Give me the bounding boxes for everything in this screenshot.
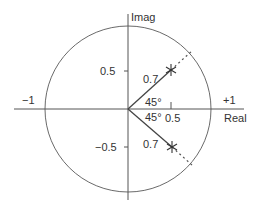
pole-extension-upper — [171, 50, 193, 70]
pole-marker-upper-icon — [166, 64, 176, 76]
angle-label-upper: 45° — [145, 96, 162, 108]
pole-magnitude-label-upper: 0.7 — [143, 73, 158, 85]
imag-axis-label: Imag — [131, 11, 155, 23]
y-tick-label-0.5: 0.5 — [100, 65, 115, 77]
real-axis-label: Real — [224, 112, 247, 124]
pole-extension-lower — [172, 147, 193, 166]
pole-magnitude-label-lower: 0.7 — [143, 138, 158, 150]
angle-label-lower: 45° — [145, 111, 162, 123]
pole-plot-diagram: Imag Real −1 0.5 +1 0.5 −0.5 0.7 0.7 45°… — [0, 0, 256, 212]
y-tick-label-neg0.5: −0.5 — [95, 141, 117, 153]
pole-marker-lower-icon — [167, 141, 177, 153]
x-tick-label-pos1: +1 — [223, 94, 236, 106]
x-tick-label-0.5: 0.5 — [165, 112, 180, 124]
x-tick-label-neg1: −1 — [22, 94, 35, 106]
